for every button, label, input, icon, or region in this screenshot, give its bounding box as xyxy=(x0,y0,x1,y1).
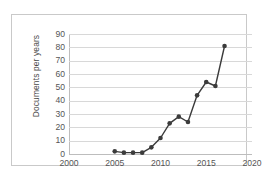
data-point xyxy=(195,93,200,98)
data-point xyxy=(131,150,136,155)
y-axis-tick-label: 20 xyxy=(43,127,65,128)
y-axis-tick-label: 50 xyxy=(43,87,65,88)
x-axis-tick-label: 2010 xyxy=(151,158,170,168)
y-axis-tick-label: 80 xyxy=(43,47,65,48)
data-point xyxy=(122,150,127,155)
data-point xyxy=(213,84,218,89)
x-axis-tick-label: 2005 xyxy=(105,158,124,168)
x-axis-tick-label: 2020 xyxy=(242,158,261,168)
data-line xyxy=(115,46,225,153)
y-axis-tick-label: 70 xyxy=(43,60,65,61)
data-point xyxy=(112,149,117,154)
data-point-markers xyxy=(112,44,226,155)
y-axis-tick-label: 90 xyxy=(43,34,65,35)
y-axis-label: Documents per years xyxy=(31,21,41,131)
data-point xyxy=(158,136,163,141)
y-axis-tick-label: 60 xyxy=(43,74,65,75)
y-axis-tick-label: 40 xyxy=(43,100,65,101)
data-point xyxy=(222,44,227,49)
y-axis-tick-label: 30 xyxy=(43,114,65,115)
chart-frame: Documents per years 0102030405060708090 … xyxy=(11,14,247,166)
data-point xyxy=(140,150,145,155)
x-axis-tick-label: 2015 xyxy=(197,158,216,168)
x-axis-tick-label: 2000 xyxy=(59,158,78,168)
chart-figure: Documents per years 0102030405060708090 … xyxy=(0,0,262,181)
data-point xyxy=(186,120,191,125)
data-point xyxy=(177,114,182,119)
y-axis-tick-label: 10 xyxy=(43,140,65,141)
y-axis-tick-label: 0 xyxy=(43,154,65,155)
line-series xyxy=(69,34,252,154)
data-point xyxy=(149,145,154,150)
data-point xyxy=(204,80,209,85)
data-point xyxy=(167,121,172,126)
plot-area: 0102030405060708090 20002005201020152020 xyxy=(69,34,252,154)
gridline xyxy=(69,154,252,155)
